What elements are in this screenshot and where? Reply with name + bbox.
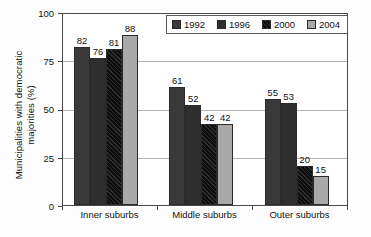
y-tick-label-75: 75 bbox=[0, 56, 54, 67]
legend-swatch-icon-1992 bbox=[172, 20, 181, 29]
bar-value-label: 52 bbox=[181, 93, 205, 104]
bar-value-label: 82 bbox=[70, 35, 94, 46]
y-tick-label-50: 50 bbox=[0, 104, 54, 115]
bar-value-label: 53 bbox=[277, 91, 301, 102]
bar-value-label: 88 bbox=[118, 23, 142, 34]
bar-inner-suburbs-2000[interactable] bbox=[106, 49, 122, 205]
legend-item-1992[interactable]: 1992 bbox=[167, 20, 212, 30]
y-tick-label-25: 25 bbox=[0, 153, 54, 164]
legend-item-2004[interactable]: 2004 bbox=[302, 20, 347, 30]
legend-label-1996: 1996 bbox=[229, 20, 250, 30]
bar-value-label: 61 bbox=[165, 75, 189, 86]
bar-outer-suburbs-2004[interactable] bbox=[313, 176, 329, 205]
bar-value-label: 15 bbox=[309, 164, 333, 175]
legend-swatch-icon-2004 bbox=[307, 20, 316, 29]
bar-chart: Municipalities with democratic majoritie… bbox=[0, 0, 371, 237]
x-tick-mark bbox=[347, 206, 348, 210]
legend-swatch-icon-1996 bbox=[217, 20, 226, 29]
legend-swatch-icon-2000 bbox=[262, 20, 271, 29]
legend-item-2000[interactable]: 2000 bbox=[257, 20, 302, 30]
legend-item-1996[interactable]: 1996 bbox=[212, 20, 257, 30]
y-tick-label-0: 0 bbox=[0, 201, 54, 212]
legend: 1992 1996 2000 2004 bbox=[166, 15, 348, 34]
plot-area: 827681886152424255532015 bbox=[62, 13, 348, 206]
legend-label-2004: 2004 bbox=[319, 20, 340, 30]
x-axis-label-outer-suburbs: Outer suburbs bbox=[252, 209, 347, 220]
bar-middle-suburbs-1992[interactable] bbox=[169, 87, 185, 205]
x-axis-label-middle-suburbs: Middle suburbs bbox=[157, 209, 252, 220]
y-axis: 100 75 50 25 0 bbox=[0, 0, 62, 237]
bar-inner-suburbs-2004[interactable] bbox=[122, 35, 138, 205]
bar-inner-suburbs-1996[interactable] bbox=[90, 58, 106, 205]
bar-value-label: 42 bbox=[213, 112, 237, 123]
x-axis-label-inner-suburbs: Inner suburbs bbox=[62, 209, 157, 220]
legend-label-1992: 1992 bbox=[184, 20, 205, 30]
y-tick-label-100: 100 bbox=[0, 8, 54, 19]
bar-middle-suburbs-2000[interactable] bbox=[201, 124, 217, 205]
legend-label-2000: 2000 bbox=[274, 20, 295, 30]
bar-outer-suburbs-1992[interactable] bbox=[265, 99, 281, 205]
bar-middle-suburbs-2004[interactable] bbox=[217, 124, 233, 205]
bar-inner-suburbs-1992[interactable] bbox=[74, 47, 90, 205]
bars-layer: 827681886152424255532015 bbox=[63, 14, 347, 205]
